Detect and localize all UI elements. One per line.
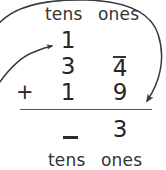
worksheet-canvas: tens ones 1 3 4 + 1 9 – 3 tens ones	[0, 0, 166, 170]
addend2-digit-tens: 1	[54, 81, 82, 104]
header-ones-label: ones	[98, 6, 139, 23]
footer-tens-label: tens	[48, 152, 86, 169]
footer-ones-label: ones	[101, 152, 142, 169]
sum-rule-line	[20, 109, 152, 110]
sum-tens-blank-dash	[63, 136, 78, 139]
plus-operator: +	[16, 82, 34, 103]
carry-digit-tens: 1	[54, 29, 82, 52]
header-tens-label: tens	[45, 6, 83, 23]
addend1-digit-ones: 4	[106, 57, 134, 80]
sum-digit-ones: 3	[106, 118, 134, 141]
addend2-digit-ones: 9	[106, 81, 134, 104]
addend1-digit-tens: 3	[54, 55, 82, 78]
